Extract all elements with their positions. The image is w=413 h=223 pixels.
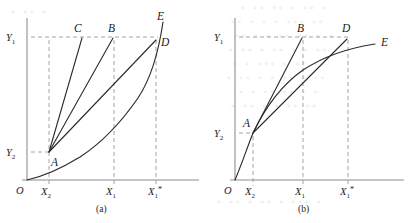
panel-b-y2-label: Y2 [214,128,224,142]
panel-b-concave-curve-OAE [235,44,375,180]
panel-b-point-label-E: E [380,36,388,48]
panel-b-point-label-A: A [242,117,251,129]
panel-a-x1star-label: X1* [147,185,162,200]
panel-b-origin-label: O [224,185,232,196]
panel-a-x2-label: X2 [40,186,51,200]
panel-b-x1-label: X1 [294,186,305,200]
panel-a-caption: (a) [96,204,107,215]
panel-a-point-label-B: B [108,22,115,34]
panel-a-point-label-D: D [160,36,170,48]
panel-a-y2-label: Y2 [6,147,16,161]
panel-b: B D E A Y1 Y2 O X2 X1 X1* (b) [214,18,404,215]
panel-a-origin-label: O [16,185,24,196]
panel-a-point-label-E: E [156,10,164,22]
figure-svg: C B E D A Y1 Y2 O X2 X1 X1* (a) [0,0,413,223]
panel-b-x1star-label: X1* [339,185,354,200]
panel-a-y1-label: Y1 [6,32,16,46]
panel-a-x1-label: X1 [105,186,116,200]
figure-container: ▪ ▪▪ ▪ ▪▪ ▪▪ ▪ ▪▪ ▪▪▪ ▪ ▪ ▪ ▪▪ ▪ ▪ ▪▪ ▪▪… [0,0,413,223]
panel-a: C B E D A Y1 Y2 O X2 X1 X1* (a) [6,10,199,215]
panel-b-chord-A-D [253,39,347,133]
panel-b-point-label-B: B [297,22,304,34]
panel-b-point-label-D: D [341,22,351,34]
panel-b-y1-label: Y1 [214,32,224,46]
panel-b-chord-A-B [253,38,302,133]
panel-a-convex-curve-OAE [27,22,163,180]
panel-a-point-label-A: A [50,156,59,168]
panel-a-point-label-C: C [74,22,82,34]
panel-b-x2-label: X2 [244,186,255,200]
panel-b-caption: (b) [298,204,309,215]
